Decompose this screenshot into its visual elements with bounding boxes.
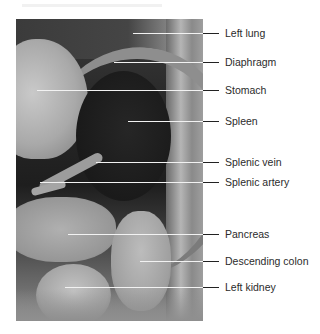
leader-line-pancreas bbox=[0, 234, 320, 235]
dissection-photo bbox=[16, 19, 203, 321]
leader-line-stomach bbox=[0, 90, 320, 91]
label-stomach: Stomach bbox=[225, 84, 266, 96]
leader-line-left-lung bbox=[0, 33, 320, 34]
label-left-kidney: Left kidney bbox=[225, 281, 276, 293]
region-pancreas bbox=[16, 197, 116, 262]
label-pancreas: Pancreas bbox=[225, 228, 269, 240]
label-spleen: Spleen bbox=[225, 115, 258, 127]
label-left-lung: Left lung bbox=[225, 27, 265, 39]
faint-bleed-through-text bbox=[22, 4, 162, 7]
label-splenic-vein: Splenic vein bbox=[225, 156, 282, 168]
label-descending-colon: Descending colon bbox=[225, 255, 308, 267]
leader-line-spleen bbox=[0, 121, 320, 122]
label-diaphragm: Diaphragm bbox=[225, 56, 276, 68]
label-splenic-artery: Splenic artery bbox=[225, 176, 289, 188]
region-lower-tissue bbox=[16, 289, 203, 321]
